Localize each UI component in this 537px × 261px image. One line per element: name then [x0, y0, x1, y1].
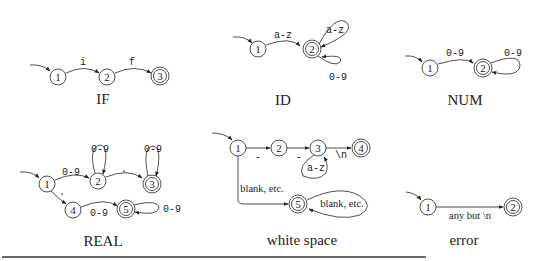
automaton-title: white space: [267, 232, 338, 248]
automaton-title: error: [449, 232, 478, 248]
transition-edge: [115, 69, 151, 74]
transition-label: f: [129, 57, 135, 68]
state-label: 3: [315, 142, 321, 154]
transition-label: 0-9: [90, 208, 108, 219]
automaton-if: 1 i 2 f 3 IF: [30, 57, 169, 107]
transition-label: any but \n: [449, 210, 492, 221]
state-label: 5: [295, 198, 301, 210]
state-label: 3: [157, 70, 163, 82]
start-arrow: [233, 37, 252, 43]
self-loop: [491, 58, 520, 74]
start-arrow: [405, 56, 422, 62]
transition-label: blank, etc.: [240, 183, 283, 194]
transition-label: 0-9: [446, 48, 464, 59]
start-arrow: [212, 133, 232, 140]
transition-edge: [238, 156, 288, 204]
automaton-white-space: 1 - 2 - 3 a-z \n 4 blank, etc. 5 blank, …: [212, 133, 370, 248]
state-label: 1: [427, 62, 433, 74]
transition-edge: [81, 202, 117, 207]
transition-label: 0-9: [91, 144, 109, 155]
transition-label: blank, etc.: [320, 198, 363, 209]
transition-label: a-z: [326, 25, 344, 36]
state-label: 1: [425, 201, 431, 213]
automaton-real: 1 0-9 2 0-9 . 3 0-9 . 4 0-9 5 0-9 REAL: [20, 144, 181, 249]
transition-label: a-z: [274, 30, 292, 41]
transition-label: 0-9: [504, 48, 522, 59]
transition-label: i: [80, 57, 86, 68]
state-label: 2: [510, 201, 516, 213]
start-arrow: [20, 172, 39, 178]
state-label: 2: [104, 71, 110, 83]
transition-label: 0-9: [144, 144, 162, 155]
state-label: 5: [123, 203, 129, 215]
state-label: 2: [480, 62, 486, 74]
state-label: 1: [55, 71, 61, 83]
self-loop: [134, 203, 159, 214]
finite-automata-figure: 1 i 2 f 3 IF 1 a-z 2 a-z 0-9 ID 1 0-9 2: [0, 0, 537, 261]
state-label: 1: [44, 178, 50, 190]
automaton-title: NUM: [447, 92, 482, 108]
automaton-title: REAL: [83, 233, 122, 249]
transition-label: \n: [335, 150, 347, 161]
automaton-title: ID: [275, 92, 291, 108]
transition-label: 0-9: [62, 167, 80, 178]
start-arrow: [406, 192, 421, 200]
transition-label: -: [296, 152, 302, 163]
self-loop: [318, 56, 341, 64]
automaton-id: 1 a-z 2 a-z 0-9 ID: [233, 21, 349, 108]
transition-label: .: [59, 187, 65, 198]
automaton-title: IF: [96, 91, 109, 107]
start-arrow: [30, 65, 50, 71]
transition-label: 0-9: [329, 72, 347, 83]
state-label: 1: [235, 142, 241, 154]
transition-label: -: [255, 152, 261, 163]
state-label: 3: [149, 178, 155, 190]
state-label: 2: [95, 175, 101, 187]
state-label: 4: [70, 204, 76, 216]
state-label: 4: [358, 142, 364, 154]
automaton-num: 1 0-9 2 0-9 NUM: [405, 48, 522, 108]
transition-edge: [66, 69, 99, 74]
transition-label: .: [121, 164, 127, 175]
state-label: 2: [309, 43, 315, 55]
transition-edge: [266, 41, 300, 46]
transition-label: 0-9: [163, 204, 181, 215]
transition-edge: [438, 60, 473, 64]
transition-label: a-z: [307, 163, 325, 174]
state-label: 1: [255, 43, 261, 55]
automaton-error: 1 any but \n 2 error: [406, 192, 522, 248]
state-label: 2: [276, 142, 282, 154]
